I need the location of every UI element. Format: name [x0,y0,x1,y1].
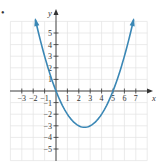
x-tick-label: 3 [88,94,92,103]
y-tick-label: −2 [43,110,52,119]
y-tick-label: 3 [48,52,52,61]
x-tick-label: 1 [65,94,69,103]
x-tick-label: 4 [100,94,104,103]
curve-arrow-left-icon [34,18,39,26]
parabola-chart: x y −3−2−11234567 −5−4−3−2−112345 [0,0,163,167]
x-tick-label: 7 [134,94,138,103]
y-tick-label: −3 [43,122,52,131]
y-tick-label: −1 [43,99,52,108]
y-tick-label: −5 [43,145,52,154]
curve-arrow-right-icon [130,18,135,26]
x-tick-label: −2 [29,94,38,103]
y-axis-label: y [47,8,52,18]
x-tick-label: −3 [18,94,27,103]
y-tick-label: 5 [48,29,52,38]
y-axis-arrow-icon [54,9,59,15]
x-axis-label: x [151,93,156,103]
x-tick-label: 6 [122,94,126,103]
y-tick-label: −4 [43,133,52,142]
x-tick-label: 2 [77,94,81,103]
y-tick-label: 4 [48,41,52,50]
